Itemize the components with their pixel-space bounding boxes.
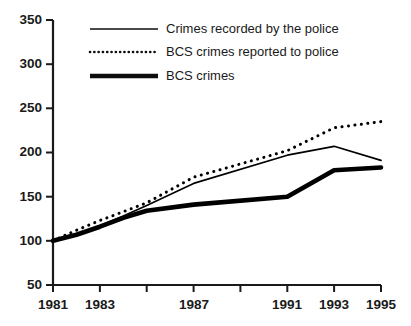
series-bcs-crimes <box>53 168 381 241</box>
y-tick-label-100: 100 <box>0 233 42 248</box>
legend-label-bcs-crimes: BCS crimes <box>166 68 235 83</box>
y-tick-label-250: 250 <box>0 100 42 115</box>
x-tick-label-1983: 1983 <box>70 297 130 312</box>
series-bcs-crimes-reported-to-police <box>53 122 381 241</box>
legend-label-bcs-crimes-reported-to-police: BCS crimes reported to police <box>166 44 339 59</box>
legend-label-crimes-recorded-by-police: Crimes recorded by the police <box>166 21 339 36</box>
y-tick-label-150: 150 <box>0 189 42 204</box>
y-tick-label-350: 350 <box>0 12 42 27</box>
line-chart: 350 300 250 200 150 100 50 1981 1983 198… <box>0 0 411 326</box>
x-tick-label-1987: 1987 <box>164 297 224 312</box>
y-tick-label-50: 50 <box>0 277 42 292</box>
x-tick-label-1995: 1995 <box>351 297 411 312</box>
y-tick-label-200: 200 <box>0 144 42 159</box>
y-tick-label-300: 300 <box>0 56 42 71</box>
